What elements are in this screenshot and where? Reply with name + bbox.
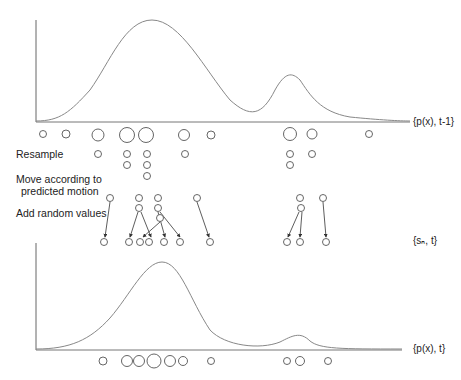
diffused-particle bbox=[137, 239, 144, 246]
resample-particle bbox=[95, 151, 102, 158]
bottom-density-plot bbox=[36, 243, 402, 350]
top-density-plot bbox=[36, 20, 410, 122]
moved-particle bbox=[157, 215, 164, 222]
diffused-particle bbox=[126, 239, 133, 246]
prior-particle bbox=[207, 131, 215, 139]
move-label-line2: predicted motion bbox=[21, 185, 99, 198]
diffused-particle bbox=[284, 239, 291, 246]
diffused-particle bbox=[323, 239, 330, 246]
moved-particle bbox=[320, 195, 327, 202]
posterior-particle bbox=[134, 356, 145, 367]
samples-label: {sₙ, t} bbox=[413, 235, 437, 246]
prior-particle bbox=[92, 129, 104, 141]
prior-particle bbox=[40, 131, 47, 138]
moved-particle bbox=[155, 205, 162, 212]
posterior-particle bbox=[296, 357, 305, 366]
prior-particle bbox=[307, 129, 317, 139]
prior-particle bbox=[62, 130, 70, 138]
prior-particle bbox=[179, 130, 190, 141]
resample-particle bbox=[182, 151, 189, 158]
moved-particle bbox=[107, 195, 114, 202]
resample-particle bbox=[124, 162, 131, 169]
particle-sets bbox=[40, 128, 373, 369]
diffused-particle bbox=[101, 239, 108, 246]
bottom-density-curve bbox=[36, 262, 402, 349]
random-label: Add random values bbox=[16, 207, 106, 220]
motion-arrow bbox=[300, 212, 302, 237]
resample-particle bbox=[124, 151, 131, 158]
prior-particle bbox=[120, 128, 135, 143]
posterior-particle bbox=[325, 358, 332, 365]
resample-particle bbox=[309, 151, 316, 158]
prior-particle bbox=[139, 128, 154, 143]
posterior-particle bbox=[179, 357, 188, 366]
prior-label: {p(x), t-1} bbox=[413, 116, 454, 127]
diffused-particle bbox=[177, 239, 184, 246]
moved-particle bbox=[298, 205, 305, 212]
posterior-label: {p(x), t} bbox=[413, 343, 445, 354]
moved-particle bbox=[136, 195, 143, 202]
posterior-particle bbox=[147, 354, 161, 368]
moved-particle bbox=[194, 195, 201, 202]
motion-arrow bbox=[141, 212, 151, 237]
resample-particle bbox=[287, 162, 294, 169]
moved-particle bbox=[297, 195, 304, 202]
top-density-curve bbox=[36, 20, 410, 121]
motion-arrow bbox=[130, 212, 138, 237]
moved-particle bbox=[155, 195, 162, 202]
posterior-particle bbox=[284, 358, 291, 365]
moved-particle bbox=[136, 205, 143, 212]
posterior-particle bbox=[122, 356, 133, 367]
posterior-particle bbox=[208, 358, 215, 365]
resample-particle bbox=[287, 151, 294, 158]
motion-arrow bbox=[323, 202, 326, 237]
motion-arrow bbox=[197, 202, 209, 237]
diffused-particle bbox=[161, 239, 168, 246]
motion-arrow bbox=[288, 212, 299, 237]
diffused-particle bbox=[297, 239, 304, 246]
diffused-particle bbox=[207, 239, 214, 246]
posterior-particle bbox=[165, 356, 176, 367]
resample-particle bbox=[144, 162, 151, 169]
resample-label: Resample bbox=[16, 148, 63, 161]
posterior-particle bbox=[99, 357, 107, 365]
diffused-particle bbox=[146, 239, 153, 246]
prior-particle bbox=[284, 128, 297, 141]
prior-particle bbox=[366, 131, 373, 138]
resample-particle bbox=[144, 151, 151, 158]
resample-particle bbox=[144, 173, 151, 180]
